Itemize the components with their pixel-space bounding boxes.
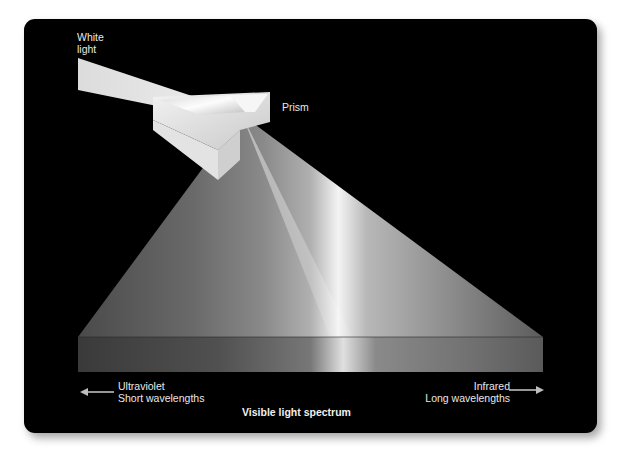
infrared-label: Infrared Long wavelengths [425, 380, 510, 404]
diagram-title: Visible light spectrum [242, 406, 351, 418]
white-light-label-line2: light [77, 43, 104, 55]
dispersed-light-cone [78, 115, 543, 337]
spectrum-band [78, 337, 543, 372]
prism-dispersion-illustration [0, 0, 620, 450]
ultraviolet-label: Ultraviolet Short wavelengths [118, 380, 204, 404]
long-wavelengths-label: Long wavelengths [425, 392, 510, 404]
prism-label: Prism [282, 101, 309, 113]
infrared-label-line1: Infrared [425, 380, 510, 392]
arrow-left-icon [80, 387, 116, 397]
arrow-right-icon [508, 385, 544, 395]
white-light-label-line1: White [77, 31, 104, 43]
white-light-label: White light [77, 31, 104, 55]
ultraviolet-label-line1: Ultraviolet [118, 380, 204, 392]
short-wavelengths-label: Short wavelengths [118, 392, 204, 404]
